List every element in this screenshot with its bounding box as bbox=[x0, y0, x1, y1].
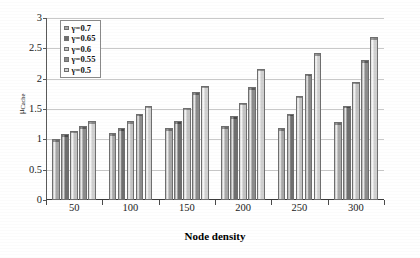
x-tick-label: 100 bbox=[102, 200, 158, 216]
legend-item: γ=0.55 bbox=[64, 54, 95, 64]
bar-top-edge bbox=[279, 129, 285, 131]
bar bbox=[239, 103, 247, 200]
y-tick-label: 1.5 bbox=[29, 104, 42, 115]
bar-group bbox=[328, 18, 384, 200]
legend-label: γ=0.6 bbox=[72, 44, 92, 54]
y-tick-label: 2.5 bbox=[29, 43, 42, 54]
legend: γ=0.7γ=0.65γ=0.6γ=0.55γ=0.5 bbox=[60, 20, 101, 78]
bar-top-edge bbox=[146, 107, 152, 109]
x-tick-label: 250 bbox=[271, 200, 327, 216]
x-tick-label: 50 bbox=[46, 200, 102, 216]
x-axis-title: Node density bbox=[46, 230, 384, 242]
bar-top-edge bbox=[222, 127, 228, 129]
x-axis-ticks: 50100150200250300 bbox=[46, 200, 384, 216]
bar-top-edge bbox=[362, 61, 368, 63]
y-axis-title: μCache bbox=[16, 74, 26, 134]
x-tick-label: 300 bbox=[328, 200, 384, 216]
bar bbox=[79, 126, 87, 200]
bar-top-edge bbox=[258, 70, 264, 72]
legend-label: γ=0.65 bbox=[72, 33, 96, 43]
x-tick-mark bbox=[271, 200, 272, 205]
y-tick-label: 3 bbox=[37, 13, 42, 24]
bar-top-edge bbox=[128, 122, 134, 124]
bar-top-edge bbox=[71, 132, 77, 134]
legend-label: γ=0.55 bbox=[72, 54, 96, 64]
bar bbox=[201, 86, 209, 200]
legend-item: γ=0.5 bbox=[64, 65, 95, 75]
legend-item: γ=0.7 bbox=[64, 23, 95, 33]
bar-top-edge bbox=[62, 135, 68, 137]
x-tick-label: 150 bbox=[159, 200, 215, 216]
bar bbox=[52, 139, 60, 200]
bar bbox=[165, 128, 173, 200]
x-tick-mark bbox=[328, 200, 329, 205]
bar-top-edge bbox=[353, 83, 359, 85]
bar bbox=[314, 53, 322, 200]
bar bbox=[305, 74, 313, 200]
bar-top-edge bbox=[231, 117, 237, 119]
legend-swatch bbox=[64, 68, 69, 73]
bar-top-edge bbox=[240, 104, 246, 106]
y-axis-title-base: μ bbox=[16, 109, 26, 114]
legend-label: γ=0.5 bbox=[72, 65, 92, 75]
bar bbox=[257, 69, 265, 200]
bar bbox=[145, 106, 153, 200]
y-axis: μCache 00.511.522.53 bbox=[0, 0, 42, 258]
x-tick-label: 200 bbox=[215, 200, 271, 216]
bar-top-edge bbox=[335, 123, 341, 125]
bar bbox=[221, 126, 229, 200]
bar-top-edge bbox=[184, 109, 190, 111]
bar-group bbox=[102, 18, 158, 200]
bar-top-edge bbox=[137, 115, 143, 117]
bar-top-edge bbox=[297, 97, 303, 99]
bar bbox=[370, 37, 378, 200]
bar-top-edge bbox=[110, 134, 116, 136]
y-tick-label: 2 bbox=[37, 74, 42, 85]
bar bbox=[278, 128, 286, 200]
bar-top-edge bbox=[80, 127, 86, 129]
bar bbox=[361, 60, 369, 200]
bar-top-edge bbox=[89, 122, 95, 124]
bar-top-edge bbox=[193, 93, 199, 95]
bar bbox=[183, 108, 191, 200]
legend-label: γ=0.7 bbox=[72, 23, 92, 33]
bar bbox=[352, 82, 360, 200]
bar-top-edge bbox=[119, 129, 125, 131]
x-tick-mark bbox=[46, 200, 47, 205]
bar-group bbox=[215, 18, 271, 200]
legend-swatch bbox=[64, 26, 69, 31]
bar-top-edge bbox=[315, 54, 321, 56]
bar-top-edge bbox=[53, 140, 59, 142]
y-tick-label: 0.5 bbox=[29, 165, 42, 176]
bar bbox=[287, 114, 295, 200]
bar bbox=[127, 121, 135, 200]
bar bbox=[230, 116, 238, 200]
y-tick-label: 1 bbox=[37, 134, 42, 145]
legend-swatch bbox=[64, 57, 69, 62]
legend-item: γ=0.6 bbox=[64, 44, 95, 54]
bar bbox=[70, 131, 78, 200]
y-tick-label: 0 bbox=[37, 195, 42, 206]
bar-group bbox=[271, 18, 327, 200]
bar bbox=[88, 121, 96, 200]
legend-swatch bbox=[64, 36, 69, 41]
y-axis-title-subscript: Cache bbox=[19, 94, 26, 110]
bar-top-edge bbox=[202, 87, 208, 89]
legend-swatch bbox=[64, 47, 69, 52]
bar-group bbox=[159, 18, 215, 200]
bar-chart: μCache 00.511.522.53 50100150200250300 N… bbox=[0, 0, 420, 258]
bar bbox=[343, 106, 351, 200]
bar-top-edge bbox=[288, 115, 294, 117]
bar bbox=[136, 114, 144, 200]
bar bbox=[118, 128, 126, 200]
bar-top-edge bbox=[175, 122, 181, 124]
x-tick-mark bbox=[159, 200, 160, 205]
bar bbox=[334, 122, 342, 200]
bar-top-edge bbox=[344, 107, 350, 109]
bar bbox=[248, 87, 256, 200]
bar bbox=[174, 121, 182, 200]
bar-top-edge bbox=[306, 75, 312, 77]
legend-item: γ=0.65 bbox=[64, 33, 95, 43]
bar bbox=[61, 134, 69, 200]
bar bbox=[296, 96, 304, 200]
